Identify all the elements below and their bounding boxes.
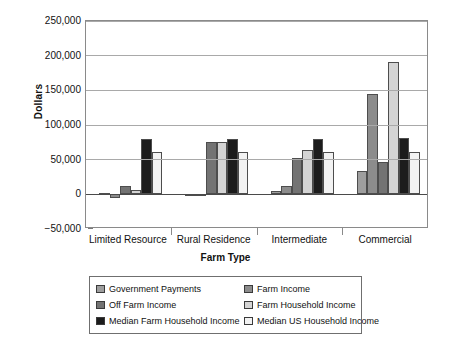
bar	[388, 62, 399, 194]
chart-legend: Government PaymentsFarm IncomeOff Farm I…	[89, 276, 362, 334]
legend-swatch-icon	[96, 301, 105, 309]
bar	[141, 139, 152, 194]
legend-item[interactable]: Median Farm Household Income	[96, 317, 244, 326]
legend-swatch-icon	[96, 317, 105, 325]
bar	[302, 150, 313, 194]
bar	[357, 171, 368, 195]
bar	[110, 194, 121, 198]
legend-label: Off Farm Income	[109, 301, 176, 310]
legend-swatch-icon	[244, 317, 253, 325]
gridline	[86, 159, 427, 160]
y-axis-tick-label: 0	[11, 188, 81, 199]
bar	[399, 138, 410, 194]
legend-item[interactable]: Government Payments	[96, 285, 244, 294]
y-axis-tick-label: 150,000	[11, 84, 81, 95]
gridline	[86, 21, 427, 22]
legend-grid: Government PaymentsFarm IncomeOff Farm I…	[96, 281, 356, 329]
x-axis-title: Farm Type	[0, 252, 451, 263]
legend-swatch-icon	[244, 285, 253, 293]
bar	[217, 142, 228, 194]
y-axis-tick-label: 250,000	[11, 15, 81, 26]
x-axis-tick-label: Commercial	[358, 234, 411, 245]
y-axis-tick-label: 50,000	[11, 153, 81, 164]
legend-swatch-icon	[244, 301, 253, 309]
bar	[206, 142, 217, 194]
legend-label: Median Farm Household Income	[109, 317, 240, 326]
legend-label: Median US Household Income	[257, 317, 379, 326]
y-axis-tick-label: 200,000	[11, 49, 81, 60]
bar	[227, 139, 238, 194]
x-axis-tick-label: Rural Residence	[177, 234, 251, 245]
gridline	[86, 55, 427, 56]
y-axis-tick-label: −50,000	[11, 223, 81, 234]
legend-item[interactable]: Farm Household Income	[244, 301, 362, 310]
bar-chart: Dollars −50,000050,000100,000150,000200,…	[0, 0, 451, 349]
legend-swatch-icon	[96, 285, 105, 293]
gridline	[86, 90, 427, 91]
x-axis-tick-label: Limited Resource	[89, 234, 167, 245]
y-axis-tick-labels: −50,000050,000100,000150,000200,000250,0…	[6, 20, 81, 228]
legend-item[interactable]: Off Farm Income	[96, 301, 244, 310]
zero-line	[86, 194, 427, 195]
legend-label: Government Payments	[109, 285, 201, 294]
legend-item[interactable]: Median US Household Income	[244, 317, 362, 326]
y-axis-tick-label: 100,000	[11, 119, 81, 130]
legend-item[interactable]: Farm Income	[244, 285, 362, 294]
legend-label: Farm Household Income	[257, 301, 356, 310]
bar	[367, 94, 378, 195]
gridline	[86, 125, 427, 126]
plot-area	[85, 20, 428, 228]
bar	[378, 162, 389, 195]
legend-label: Farm Income	[257, 285, 310, 294]
x-axis-tick-labels: Limited ResourceRural ResidenceIntermedi…	[85, 234, 428, 250]
x-axis-tick-label: Intermediate	[272, 234, 328, 245]
bar	[313, 139, 324, 194]
bar	[292, 158, 303, 194]
